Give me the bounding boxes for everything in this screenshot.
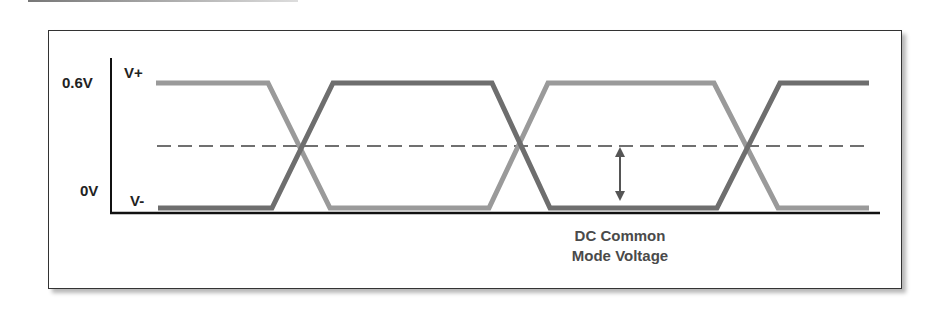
- common-mode-caption: DC Common Mode Voltage: [540, 226, 700, 266]
- caption-line-2: Mode Voltage: [540, 246, 700, 266]
- y-label-top: 0.6V: [62, 74, 93, 91]
- y-label-bottom: 0V: [80, 182, 98, 199]
- arrow-down-head-icon: [615, 191, 625, 201]
- waveform-diagram: [0, 0, 952, 313]
- trace-label-low: V-: [130, 192, 144, 209]
- arrow-up-head-icon: [615, 147, 625, 157]
- caption-line-1: DC Common: [540, 226, 700, 246]
- trace-label-high: V+: [124, 64, 143, 81]
